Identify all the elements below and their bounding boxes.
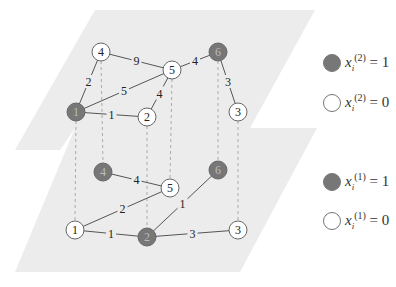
layer1-node-2: 2 xyxy=(138,228,156,246)
layer2-node-3: 3 xyxy=(229,103,247,121)
edge-weight: 9 xyxy=(134,54,140,68)
legend-label: xi(2) = 1 xyxy=(345,52,389,73)
layer2-node-6: 6 xyxy=(209,43,227,61)
edge-weight: 4 xyxy=(134,173,140,187)
node-label: 3 xyxy=(235,223,241,237)
legend-label: xi(1) = 0 xyxy=(345,210,389,231)
edge-weight: 1 xyxy=(180,197,186,211)
empty-node-icon xyxy=(323,94,341,112)
node-label: 6 xyxy=(215,45,221,59)
edge-weight: 2 xyxy=(86,75,92,89)
node-label: 5 xyxy=(167,181,173,195)
legend-label: xi(2) = 0 xyxy=(345,92,389,113)
legend-item-layer2-zero: xi(2) = 0 xyxy=(323,92,389,113)
filled-node-icon xyxy=(323,173,341,191)
legend-label: xi(1) = 1 xyxy=(345,171,389,192)
legend-item-layer1-one: xi(1) = 1 xyxy=(323,171,389,192)
empty-node-icon xyxy=(323,212,341,230)
edge-weight: 2 xyxy=(120,202,126,216)
layer1-node-3: 3 xyxy=(229,221,247,239)
edge-weight: 3 xyxy=(190,227,196,241)
layer2-node-1: 1 xyxy=(67,103,85,121)
legend-item-layer2-one: xi(2) = 1 xyxy=(323,52,389,73)
node-label: 5 xyxy=(169,63,175,77)
node-label: 4 xyxy=(98,45,104,59)
node-label: 2 xyxy=(144,230,150,244)
edge-weight: 4 xyxy=(157,87,163,101)
layer2-node-2: 2 xyxy=(138,108,156,126)
layer1-node-4: 4 xyxy=(94,163,112,181)
node-label: 1 xyxy=(72,223,78,237)
layer1-node-6: 6 xyxy=(209,161,227,179)
legend-item-layer1-zero: xi(1) = 0 xyxy=(323,210,389,231)
filled-node-icon xyxy=(323,54,341,72)
edge-weight: 1 xyxy=(109,108,115,122)
node-label: 2 xyxy=(144,110,150,124)
node-label: 3 xyxy=(235,105,241,119)
node-label: 4 xyxy=(100,165,106,179)
layer2-node-5: 5 xyxy=(163,61,181,79)
edge-weight: 5 xyxy=(121,84,127,98)
plane-layer-1 xyxy=(15,128,317,272)
node-label: 6 xyxy=(215,163,221,177)
node-label: 1 xyxy=(73,105,79,119)
layer2-node-4: 4 xyxy=(92,43,110,61)
layer1-node-5: 5 xyxy=(161,179,179,197)
edge-weight: 1 xyxy=(108,227,114,241)
edge-weight: 3 xyxy=(225,75,231,89)
multilayer-graph-diagram: 9251443 42113 123456 123456 xyxy=(0,0,396,287)
layer1-node-1: 1 xyxy=(66,221,84,239)
edge-weight: 4 xyxy=(192,54,198,68)
